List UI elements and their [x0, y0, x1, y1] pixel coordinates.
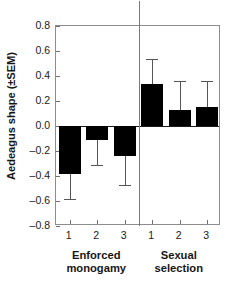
- error-bar-cap: [64, 199, 76, 200]
- group-label: Enforcedmonogamy: [66, 249, 126, 275]
- x-tick-mark: [207, 220, 208, 224]
- x-tick-mark: [152, 220, 153, 224]
- bar: [196, 107, 218, 126]
- x-tick-mark: [97, 220, 98, 224]
- x-tick-mark: [180, 220, 181, 224]
- bar: [141, 84, 163, 127]
- group-label-line1: Enforced: [66, 249, 126, 262]
- group-label-line2: monogamy: [66, 262, 126, 275]
- y-axis-tick-labels: 0.80.60.40.20.0–0.2–0.4–0.6–0.8: [18, 0, 50, 287]
- x-tick-mark: [70, 220, 71, 224]
- error-bar-cap: [146, 59, 158, 60]
- x-tick-label: 2: [169, 229, 189, 241]
- group-label-line1: Sexual: [155, 249, 204, 262]
- bar: [86, 126, 108, 140]
- figure-bar-chart: Aedeagus shape (±SEM) 0.80.60.40.20.0–0.…: [0, 0, 232, 287]
- plot-area: [55, 25, 220, 225]
- error-bar-line: [70, 174, 71, 198]
- y-tick-label: 0.8: [20, 19, 50, 31]
- error-bar-cap: [91, 165, 103, 166]
- bar: [59, 126, 81, 174]
- x-tick-label: 2: [86, 229, 106, 241]
- y-tick-mark: [56, 226, 60, 227]
- y-tick-label: 0.4: [20, 69, 50, 81]
- error-bar-cap: [201, 81, 213, 82]
- y-tick-mark: [56, 176, 60, 177]
- group-divider-line: [139, 1, 140, 226]
- y-tick-mark: [56, 76, 60, 77]
- y-tick-label: –0.2: [20, 144, 50, 156]
- group-label: Sexualselection: [155, 249, 204, 275]
- y-tick-label: 0.2: [20, 94, 50, 106]
- x-tick-label: 1: [59, 229, 79, 241]
- error-bar-cap: [119, 185, 131, 186]
- error-bar-line: [125, 156, 126, 185]
- error-bar-line: [152, 59, 153, 84]
- error-bar-cap: [174, 81, 186, 82]
- x-tick-mark: [125, 220, 126, 224]
- error-bar-line: [97, 140, 98, 165]
- bar: [114, 126, 136, 156]
- x-tick-label: 3: [114, 229, 134, 241]
- y-tick-mark: [56, 101, 60, 102]
- y-tick-label: 0.6: [20, 44, 50, 56]
- y-tick-mark: [56, 201, 60, 202]
- y-tick-label: –0.6: [20, 194, 50, 206]
- y-axis-title: Aedeagus shape (±SEM): [5, 52, 17, 180]
- y-tick-mark: [56, 26, 60, 27]
- x-tick-label: 3: [196, 229, 216, 241]
- y-tick-label: 0.0: [20, 119, 50, 131]
- bar: [169, 110, 191, 126]
- y-tick-label: –0.8: [20, 219, 50, 231]
- error-bar-line: [180, 81, 181, 110]
- group-label-line2: selection: [155, 262, 204, 275]
- y-tick-mark: [56, 51, 60, 52]
- error-bar-line: [207, 81, 208, 107]
- y-tick-label: –0.4: [20, 169, 50, 181]
- x-tick-label: 1: [141, 229, 161, 241]
